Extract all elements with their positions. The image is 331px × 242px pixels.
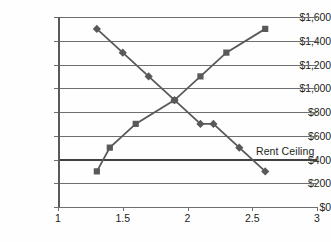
data-point-supply-2 xyxy=(133,121,139,127)
data-point-supply-6 xyxy=(262,26,268,32)
x-tick-mark-2 xyxy=(188,207,189,211)
data-point-supply-0 xyxy=(94,168,100,174)
x-tick-mark-3 xyxy=(317,207,318,211)
rent-ceiling-label: Rent Ceiling xyxy=(256,146,314,157)
data-point-supply-5 xyxy=(223,50,229,56)
x-tick-mark-15 xyxy=(123,207,124,211)
x-tick-label-3: 3 xyxy=(305,213,329,224)
x-tick-label-25: 2.5 xyxy=(240,213,264,224)
x-tick-mark-1 xyxy=(58,207,59,211)
supply-demand-chart: $1,600 $1,400 $1,200 $1,000 $800 $600 $4… xyxy=(0,0,331,242)
x-tick-label-2: 2 xyxy=(176,213,200,224)
data-point-supply-3 xyxy=(171,97,177,103)
plot-area xyxy=(58,17,317,207)
x-tick-label-15: 1.5 xyxy=(111,213,135,224)
x-tick-mark-25 xyxy=(252,207,253,211)
series-layer xyxy=(58,17,317,207)
data-point-supply-4 xyxy=(197,73,203,79)
y-axis-line xyxy=(58,17,60,207)
data-point-supply-1 xyxy=(107,145,113,151)
x-tick-label-1: 1 xyxy=(46,213,70,224)
